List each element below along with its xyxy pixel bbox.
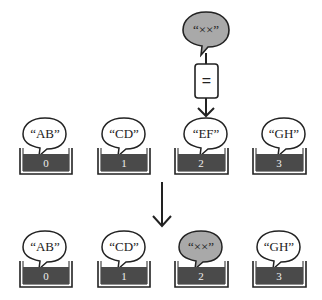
equals-symbol: = (202, 72, 211, 89)
down-arrow-icon (198, 98, 214, 116)
cell-index: 0 (43, 270, 49, 282)
array-after: “AB” 0 “CD” 1 “××” 2 “GH” (20, 231, 306, 287)
cell-value: “GH” (269, 126, 300, 141)
array-cell: “AB” 0 (20, 231, 72, 287)
array-cell: “CD” 1 (98, 118, 150, 174)
array-cell: “GH” 3 (253, 231, 306, 287)
array-before: “AB” 0 “CD” 1 “EF” 2 “GH” (20, 118, 306, 174)
cell-index: 3 (276, 157, 282, 169)
cell-index: 0 (43, 157, 49, 169)
array-cell-replaced: “××” 2 (175, 231, 228, 287)
transition-arrow-icon (153, 182, 171, 226)
array-cell: “GH” 3 (253, 118, 306, 174)
array-assignment-diagram: “××” = “AB” 0 “CD” 1 “E (0, 0, 322, 300)
cell-value: “AB” (30, 239, 60, 254)
cell-value: “AB” (30, 126, 60, 141)
cell-value: “××” (188, 239, 214, 254)
array-cell: “EF” 2 (175, 118, 228, 174)
array-cell: “CD” 1 (98, 231, 150, 287)
cell-index: 3 (276, 270, 282, 282)
cell-index: 1 (121, 270, 127, 282)
array-cell: “AB” 0 (20, 118, 72, 174)
cell-index: 1 (121, 157, 127, 169)
new-value-bubble: “××” (183, 12, 229, 55)
assignment-operator-box: = (195, 64, 218, 98)
cell-value: “CD” (109, 126, 139, 141)
cell-index: 2 (198, 270, 204, 282)
cell-value: “EF” (193, 126, 220, 141)
new-value-label: “××” (193, 22, 219, 37)
cell-value: “CD” (109, 239, 139, 254)
cell-value: “GH” (264, 239, 295, 254)
cell-index: 2 (198, 157, 204, 169)
